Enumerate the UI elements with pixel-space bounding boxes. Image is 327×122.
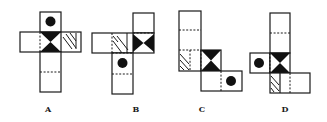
circle-icon — [46, 17, 56, 27]
option-label-d: D — [282, 104, 289, 114]
circle-icon — [254, 58, 264, 68]
option-b-net — [92, 13, 154, 94]
option-c-net — [179, 11, 242, 91]
option-a-net — [20, 12, 81, 92]
option-label-c: C — [199, 104, 205, 114]
option-label-a: A — [45, 104, 51, 114]
option-label-b: B — [133, 104, 140, 114]
option-d-net — [250, 13, 310, 93]
circle-icon — [226, 76, 236, 86]
circle-icon — [118, 58, 128, 68]
bottom-column — [40, 52, 61, 92]
